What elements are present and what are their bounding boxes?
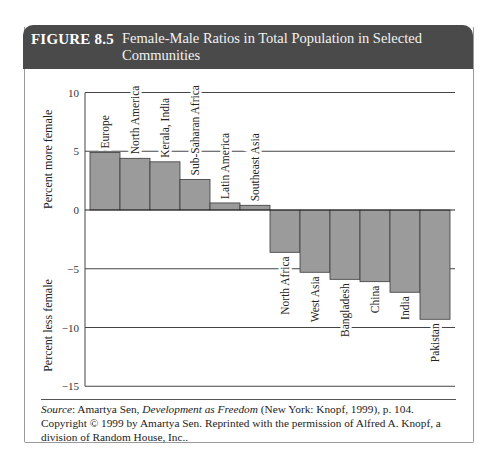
source-book: Development as Freedom	[142, 403, 258, 415]
source-label: Source	[41, 403, 72, 415]
category-label: North America	[129, 86, 141, 155]
bar	[420, 210, 450, 319]
bar	[240, 205, 270, 210]
y-axis-ticks: 1050−5−10−15	[62, 87, 80, 393]
category-label: Kerala, India	[159, 98, 172, 158]
y-tick-label: −5	[67, 263, 79, 275]
y-tick-label: 10	[68, 87, 80, 99]
category-label: India	[399, 296, 411, 320]
category-label: Europe	[99, 115, 112, 148]
bar	[180, 179, 210, 210]
bar	[390, 210, 420, 292]
category-label: Sub-Saharan Africa	[189, 85, 201, 175]
y-tick-label: −10	[62, 322, 80, 334]
category-label: Latin America	[219, 133, 231, 199]
bar	[210, 203, 240, 210]
source-note: Source: Amartya Sen, Development as Free…	[41, 402, 461, 444]
category-label: North Africa	[279, 256, 291, 314]
bar	[330, 210, 360, 279]
bar	[120, 158, 150, 210]
bar	[90, 152, 120, 210]
bars	[85, 152, 455, 319]
category-label: West Asia	[309, 276, 321, 322]
bar-chart: EuropeNorth AmericaKerala, IndiaSub-Saha…	[0, 0, 492, 459]
bar	[150, 162, 180, 210]
y-label-positive: Percent more female	[41, 110, 55, 209]
category-label: Pakistan	[429, 323, 441, 362]
bar	[270, 210, 300, 252]
y-label-negative: Percent less female	[41, 279, 55, 372]
y-axis-labels: Percent more femalePercent less female	[41, 110, 55, 372]
y-tick-label: −15	[62, 380, 80, 392]
y-tick-label: 5	[74, 145, 80, 157]
y-tick-label: 0	[74, 204, 80, 216]
source-author: Amartya Sen,	[77, 403, 142, 415]
source-divider	[41, 399, 456, 400]
category-label: China	[369, 286, 381, 313]
category-label: Bangladesh	[339, 283, 352, 337]
bar	[360, 210, 390, 282]
bar	[300, 210, 330, 272]
category-label: Southeast Asia	[249, 133, 261, 201]
